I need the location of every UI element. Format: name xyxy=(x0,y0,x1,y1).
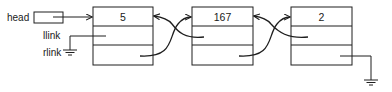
node-3-llink-arrow xyxy=(254,16,308,37)
node-3-value: 2 xyxy=(319,11,325,23)
llink-label: llink xyxy=(43,30,61,41)
rlink-label: rlink xyxy=(43,47,62,58)
node-2-llink-arrow xyxy=(154,16,204,37)
diagram-canvas: head llink rlink 5 167 2 xyxy=(0,0,392,92)
node-3-rlink-pointer xyxy=(340,56,371,80)
node-1-rlink-arrow xyxy=(140,17,191,56)
head-label: head xyxy=(7,12,29,23)
node-2-rlink-arrow xyxy=(239,17,290,56)
node-2-value: 167 xyxy=(214,11,232,23)
linked-list-diagram: head llink rlink 5 167 2 xyxy=(0,0,392,92)
ground-icon xyxy=(364,80,378,85)
ground-icon xyxy=(63,50,77,55)
node-1-value: 5 xyxy=(120,11,126,23)
node-1-llink-pointer xyxy=(70,36,106,50)
